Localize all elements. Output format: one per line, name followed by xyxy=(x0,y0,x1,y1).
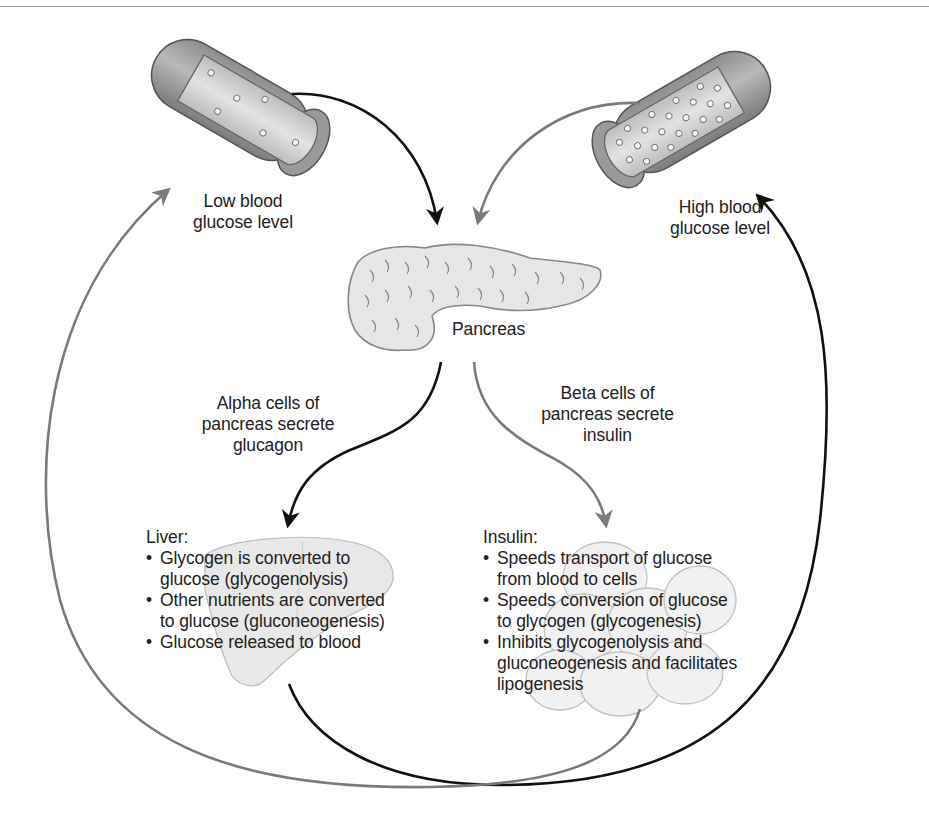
insulin-item-line: lipogenesis xyxy=(497,674,783,695)
insulin-item-line: to glycogen (glycogenesis) xyxy=(497,611,783,632)
high-label-line2: glucose level xyxy=(645,218,795,239)
insulin-item-line: from blood to cells xyxy=(497,569,783,590)
liver-list: Glycogen is converted to glucose (glycog… xyxy=(146,548,446,653)
low-label-line1: Low blood xyxy=(168,191,318,212)
liver-item-line: Glycogen is converted to xyxy=(160,548,446,569)
alpha-cells-label: Alpha cells of pancreas secrete glucagon xyxy=(183,393,353,456)
high-label-line1: High blood xyxy=(645,197,795,218)
liver-item-line: Other nutrients are converted xyxy=(160,590,446,611)
insulin-item: Inhibits glycogenolysis and gluconeogene… xyxy=(483,632,783,695)
liver-item: Glucose released to blood xyxy=(146,632,446,653)
liver-item-line: Glucose released to blood xyxy=(160,632,446,653)
alpha-line3: glucagon xyxy=(183,435,353,456)
diagram-art xyxy=(0,0,929,813)
liver-item: Other nutrients are converted to glucose… xyxy=(146,590,446,632)
blood-vessel-low-glucose-icon xyxy=(138,26,340,184)
liver-item: Glycogen is converted to glucose (glycog… xyxy=(146,548,446,590)
insulin-item: Speeds conversion of glucose to glycogen… xyxy=(483,590,783,632)
beta-cells-label: Beta cells of pancreas secrete insulin xyxy=(520,383,695,446)
insulin-item-line: Speeds transport of glucose xyxy=(497,548,783,569)
alpha-line2: pancreas secrete xyxy=(183,414,353,435)
low-blood-glucose-label: Low blood glucose level xyxy=(168,191,318,233)
beta-line2: pancreas secrete xyxy=(520,404,695,425)
liver-box: Liver: Glycogen is converted to glucose … xyxy=(146,527,446,653)
liver-item-line: glucose (glycogenolysis) xyxy=(160,569,446,590)
insulin-item: Speeds transport of glucose from blood t… xyxy=(483,548,783,590)
pancreas-label: Pancreas xyxy=(452,319,525,340)
low-label-line2: glucose level xyxy=(168,212,318,233)
insulin-list: Speeds transport of glucose from blood t… xyxy=(483,548,783,695)
insulin-heading: Insulin: xyxy=(483,527,783,548)
high-blood-glucose-label: High blood glucose level xyxy=(645,197,795,239)
alpha-line1: Alpha cells of xyxy=(183,393,353,414)
insulin-item-line: Speeds conversion of glucose xyxy=(497,590,783,611)
blood-vessel-high-glucose-icon xyxy=(581,38,783,196)
liver-heading: Liver: xyxy=(146,527,446,548)
beta-line3: insulin xyxy=(520,425,695,446)
insulin-box: Insulin: Speeds transport of glucose fro… xyxy=(483,527,783,695)
liver-item-line: to glucose (gluconeogenesis) xyxy=(160,611,446,632)
beta-line1: Beta cells of xyxy=(520,383,695,404)
insulin-item-line: gluconeogenesis and facilitates xyxy=(497,653,783,674)
insulin-item-line: Inhibits glycogenolysis and xyxy=(497,632,783,653)
